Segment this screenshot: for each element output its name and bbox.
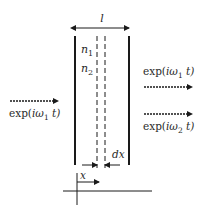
output-wave-2-label: exp(iω2 t) — [143, 120, 194, 135]
refractive-index-n2: n2 — [81, 62, 93, 77]
refractive-index-n1: n1 — [81, 43, 93, 58]
dx-label: dx — [112, 148, 125, 160]
output-wave-1-label: exp(iω1 t) — [143, 65, 194, 80]
position-label: x — [80, 169, 86, 181]
nonlinear-crystal-diagram: l n1 n2 exp(iω1 t) exp(iω1 t) exp(iω2 t)… — [0, 0, 200, 214]
width-label: l — [100, 12, 104, 25]
input-wave-label: exp(iω1 t) — [9, 107, 60, 122]
